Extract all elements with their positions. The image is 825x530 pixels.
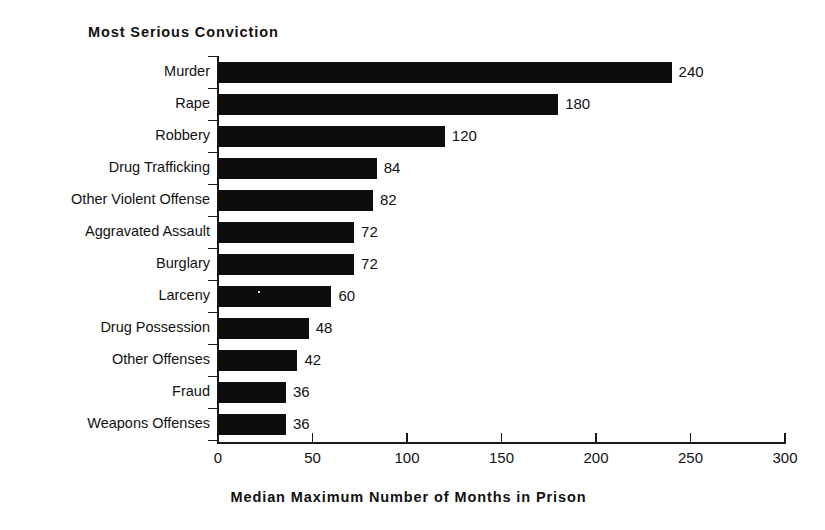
bar-row: Rape180 [0, 89, 825, 121]
bar-row: Other Violent Offense82 [0, 185, 825, 217]
bar[interactable] [218, 158, 377, 179]
category-label: Fraud [172, 381, 210, 402]
bar[interactable] [218, 62, 672, 83]
bar[interactable] [218, 94, 558, 115]
bar-row: Fraud36 [0, 377, 825, 409]
category-label: Drug Trafficking [109, 157, 210, 178]
bar-value-label: 82 [380, 189, 397, 210]
x-axis-title: Median Maximum Number of Months in Priso… [0, 489, 825, 505]
category-label: Drug Possession [100, 317, 210, 338]
bar-value-label: 36 [293, 381, 310, 402]
bar[interactable] [218, 190, 373, 211]
bar-value-label: 180 [565, 93, 590, 114]
bar-row: Other Offenses42 [0, 345, 825, 377]
bar-row: Larceny60 [0, 281, 825, 313]
x-axis-tick-label: 100 [394, 449, 419, 466]
bar-row: Drug Possession48 [0, 313, 825, 345]
bar-row: Drug Trafficking84 [0, 153, 825, 185]
bar-row: Murder240 [0, 57, 825, 89]
bar-row: Burglary72 [0, 249, 825, 281]
bar[interactable] [218, 222, 354, 243]
x-axis-tick-label: 150 [489, 449, 514, 466]
bar[interactable] [218, 318, 309, 339]
x-axis-tick-label: 0 [214, 449, 222, 466]
category-label: Larceny [158, 285, 210, 306]
plot-area: 050100150200250300 Murder240Rape180Robbe… [0, 0, 825, 530]
bar[interactable] [218, 350, 297, 371]
bar-value-label: 240 [679, 61, 704, 82]
category-label: Weapons Offenses [87, 413, 210, 434]
bar-row: Robbery120 [0, 121, 825, 153]
x-axis-tick-label: 300 [772, 449, 797, 466]
bar-value-label: 72 [361, 253, 378, 274]
category-label: Aggravated Assault [85, 221, 210, 242]
bar[interactable] [218, 286, 331, 307]
bar-row: Aggravated Assault72 [0, 217, 825, 249]
bar-value-label: 72 [361, 221, 378, 242]
bar-value-label: 84 [384, 157, 401, 178]
category-label: Rape [175, 93, 210, 114]
scan-artifact-speck [258, 291, 260, 293]
bar[interactable] [218, 414, 286, 435]
bar[interactable] [218, 254, 354, 275]
x-axis-tick-label: 250 [678, 449, 703, 466]
chart-figure: Most Serious Conviction 0501001502002503… [0, 0, 825, 530]
category-label: Other Offenses [112, 349, 210, 370]
bar-value-label: 60 [338, 285, 355, 306]
x-axis-tick-label: 200 [583, 449, 608, 466]
bar-row: Weapons Offenses36 [0, 409, 825, 441]
category-label: Robbery [155, 125, 210, 146]
category-label: Burglary [156, 253, 210, 274]
category-label: Other Violent Offense [71, 189, 210, 210]
bar[interactable] [218, 382, 286, 403]
bar-value-label: 36 [293, 413, 310, 434]
bar[interactable] [218, 126, 445, 147]
x-axis-title-text: Median Maximum Number of Months in Priso… [231, 489, 587, 505]
x-axis-tick-label: 50 [304, 449, 321, 466]
bar-value-label: 48 [316, 317, 333, 338]
bar-value-label: 120 [452, 125, 477, 146]
category-label: Murder [164, 61, 210, 82]
bar-value-label: 42 [304, 349, 321, 370]
